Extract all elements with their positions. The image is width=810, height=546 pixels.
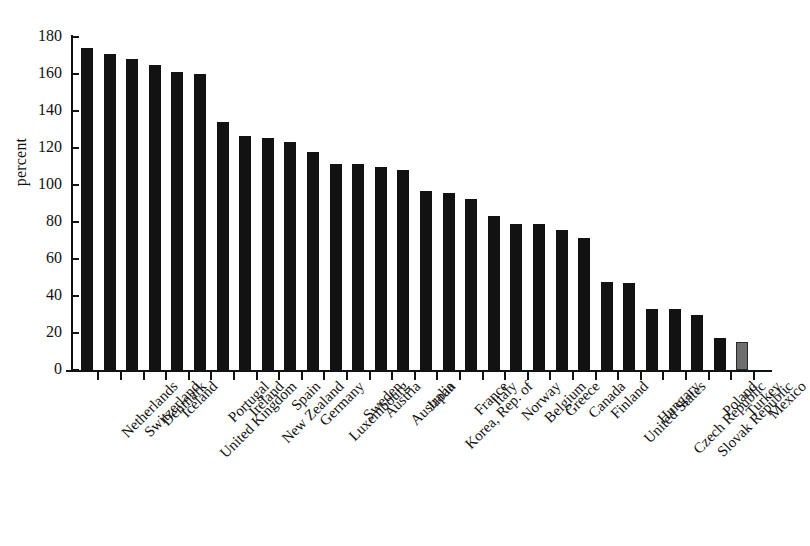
y-axis-title: percent xyxy=(12,102,36,222)
x-axis-tick xyxy=(662,372,664,380)
y-tick-label: 120 xyxy=(38,137,62,157)
bar xyxy=(397,170,409,370)
x-axis-tick xyxy=(414,372,416,380)
y-tick-label: 160 xyxy=(38,63,62,83)
bar xyxy=(736,342,748,370)
y-axis-line xyxy=(71,35,73,372)
bar xyxy=(262,138,274,370)
x-axis-tick xyxy=(527,372,529,380)
bar xyxy=(352,164,364,370)
y-tick-mark xyxy=(72,295,79,297)
x-axis-tick xyxy=(143,372,145,380)
x-axis-tick xyxy=(708,372,710,380)
bar xyxy=(601,282,613,370)
bar xyxy=(533,224,545,370)
bar xyxy=(330,164,342,370)
bar xyxy=(510,224,522,370)
x-axis-tick xyxy=(97,372,99,380)
y-tick-label: 60 xyxy=(46,248,62,268)
bar xyxy=(284,142,296,370)
bar xyxy=(217,122,229,370)
bar xyxy=(194,74,206,370)
bar xyxy=(556,230,568,370)
y-tick-mark xyxy=(72,369,79,371)
x-axis-tick xyxy=(685,372,687,380)
bar xyxy=(239,136,251,370)
bar xyxy=(714,338,726,370)
bar xyxy=(691,315,703,370)
y-tick-mark xyxy=(72,221,79,223)
x-axis-tick xyxy=(278,372,280,380)
bar xyxy=(578,238,590,370)
y-tick-mark xyxy=(72,184,79,186)
bar xyxy=(375,167,387,371)
bar xyxy=(81,48,93,370)
y-tick-mark xyxy=(72,332,79,334)
bar xyxy=(623,283,635,370)
y-tick-mark xyxy=(72,110,79,112)
y-tick-label: 140 xyxy=(38,100,62,120)
plot-area: 020406080100120140160180 xyxy=(72,37,770,370)
bar xyxy=(126,59,138,370)
y-tick-label: 20 xyxy=(46,322,62,342)
bar xyxy=(307,152,319,370)
y-tick-mark xyxy=(72,258,79,260)
x-axis-tick xyxy=(595,372,597,380)
bar xyxy=(420,191,432,370)
x-axis-tick xyxy=(369,372,371,380)
x-axis-tick xyxy=(730,372,732,380)
x-axis-tick xyxy=(256,372,258,380)
x-axis-line xyxy=(66,370,772,372)
bar xyxy=(488,216,500,370)
bar xyxy=(171,72,183,370)
bar xyxy=(104,54,116,370)
y-tick-mark xyxy=(72,36,79,38)
y-tick-mark xyxy=(72,147,79,149)
bar xyxy=(465,199,477,370)
bar xyxy=(443,193,455,370)
y-tick-label: 80 xyxy=(46,211,62,231)
x-axis-tick xyxy=(482,372,484,380)
y-tick-mark xyxy=(72,73,79,75)
x-axis-label: Hungary xyxy=(655,378,703,426)
x-axis-tick xyxy=(572,372,574,380)
y-tick-label: 0 xyxy=(54,359,62,379)
x-axis-tick xyxy=(301,372,303,380)
x-axis-tick xyxy=(233,372,235,380)
x-axis-tick xyxy=(120,372,122,380)
x-axis-tick xyxy=(753,372,755,380)
x-axis-tick xyxy=(346,372,348,380)
x-axis-tick xyxy=(436,372,438,380)
y-tick-label: 180 xyxy=(38,26,62,46)
x-axis-label: Japan xyxy=(423,378,458,413)
y-tick-label: 100 xyxy=(38,174,62,194)
x-axis-tick xyxy=(323,372,325,380)
bar xyxy=(149,65,161,370)
x-axis-tick xyxy=(459,372,461,380)
bar xyxy=(669,309,681,370)
y-tick-label: 40 xyxy=(46,285,62,305)
bar xyxy=(646,309,658,370)
